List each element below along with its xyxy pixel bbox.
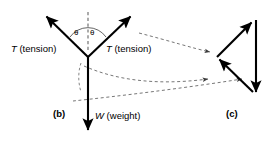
- tension-right-text: (tension): [112, 43, 152, 54]
- panel-c-tag: (c): [226, 109, 238, 119]
- tension-right-label: T (tension): [106, 44, 151, 54]
- vertex-dashed-curve: [79, 63, 81, 92]
- tension-left-text: (tension): [17, 43, 57, 54]
- leader-weight-curve: [73, 79, 242, 101]
- panel-b-tag: (b): [53, 109, 65, 119]
- figure-container: T (tension) T (tension) W (weight) θ θ (…: [0, 0, 271, 143]
- triangle-tension-vector-lower: [220, 60, 254, 93]
- leader-tension-left-curve: [84, 66, 208, 82]
- theta-right-label: θ: [90, 29, 94, 37]
- leader-curves: [73, 33, 242, 101]
- panel-c-vector-triangle: [217, 20, 256, 92]
- weight-text: (weight): [104, 110, 140, 121]
- weight-symbol: W: [95, 110, 104, 121]
- triangle-tension-vector-upper: [217, 23, 252, 58]
- weight-label: W (weight): [95, 111, 140, 121]
- theta-left-label: θ: [74, 29, 78, 37]
- tension-left-label: T (tension): [11, 44, 56, 54]
- physics-vector-figure: [0, 0, 271, 143]
